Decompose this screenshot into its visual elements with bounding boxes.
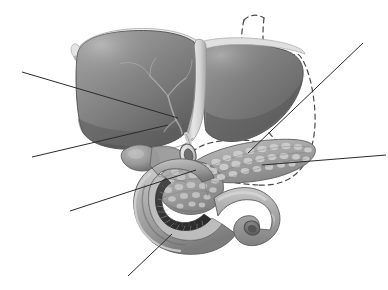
anatomy-illustration-canvas — [0, 0, 388, 290]
anatomy-figure — [0, 0, 388, 290]
gallbladder-highlight — [128, 149, 144, 159]
